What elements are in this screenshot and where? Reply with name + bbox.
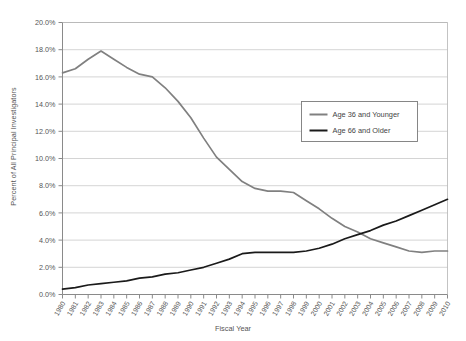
x-tick-label: 1992 xyxy=(207,300,221,317)
y-tick-label: 4.0% xyxy=(39,236,56,245)
y-tick-label: 18.0% xyxy=(35,45,56,54)
x-tick-label: 1987 xyxy=(143,300,157,317)
x-tick-label: 1989 xyxy=(168,300,182,317)
x-tick-label: 2009 xyxy=(425,300,439,317)
x-tick-label: 2006 xyxy=(386,300,400,317)
x-tick-label: 2005 xyxy=(374,300,388,317)
x-tick-label: 2010 xyxy=(438,300,452,317)
x-tick-label: 1983 xyxy=(91,300,105,317)
x-tick-label: 2008 xyxy=(412,300,426,317)
x-tick-label: 1982 xyxy=(78,300,92,317)
x-tick-label: 1981 xyxy=(66,300,80,317)
x-tick-label: 2007 xyxy=(399,300,413,317)
legend-label: Age 66 and Older xyxy=(333,126,391,135)
chart-container: 0.0%2.0%4.0%6.0%8.0%10.0%12.0%14.0%16.0%… xyxy=(0,0,466,341)
gridlines xyxy=(63,23,448,268)
y-tick-label: 16.0% xyxy=(35,73,56,82)
x-tick-label: 1993 xyxy=(220,300,234,317)
data-series xyxy=(63,51,448,289)
y-tick-label: 14.0% xyxy=(35,100,56,109)
y-tick-label: 12.0% xyxy=(35,127,56,136)
y-tick-label: 10.0% xyxy=(35,154,56,163)
x-tick-label: 2003 xyxy=(348,300,362,317)
x-tick-label: 1980 xyxy=(53,300,67,317)
y-axis-ticks: 0.0%2.0%4.0%6.0%8.0%10.0%12.0%14.0%16.0%… xyxy=(35,18,62,299)
chart-legend: Age 36 and YoungerAge 66 and Older xyxy=(302,102,418,142)
x-axis-ticks: 1980198119821983198419851986198719881989… xyxy=(53,295,452,317)
x-tick-label: 1984 xyxy=(104,300,118,317)
x-tick-label: 1986 xyxy=(130,300,144,317)
x-tick-label: 1985 xyxy=(117,300,131,317)
y-tick-label: 20.0% xyxy=(35,18,56,27)
x-tick-label: 2000 xyxy=(309,300,323,317)
x-tick-label: 1997 xyxy=(271,300,285,317)
x-tick-label: 1995 xyxy=(245,300,259,317)
x-tick-label: 1990 xyxy=(181,300,195,317)
y-tick-label: 6.0% xyxy=(39,209,56,218)
x-tick-label: 1988 xyxy=(155,300,169,317)
x-tick-label: 2001 xyxy=(322,300,336,317)
y-tick-label: 2.0% xyxy=(39,263,56,272)
y-tick-label: 0.0% xyxy=(39,290,56,299)
x-tick-label: 2002 xyxy=(335,300,349,317)
legend-label: Age 36 and Younger xyxy=(333,110,401,119)
line-chart: 0.0%2.0%4.0%6.0%8.0%10.0%12.0%14.0%16.0%… xyxy=(0,0,466,341)
x-tick-label: 1994 xyxy=(232,300,246,317)
legend-box xyxy=(302,102,418,142)
x-axis-title: Fiscal Year xyxy=(0,324,466,333)
x-tick-label: 1999 xyxy=(297,300,311,317)
series-line xyxy=(63,51,448,252)
y-tick-label: 8.0% xyxy=(39,181,56,190)
x-tick-label: 2004 xyxy=(361,300,375,317)
x-tick-label: 1996 xyxy=(258,300,272,317)
x-tick-label: 1991 xyxy=(194,300,208,317)
x-tick-label: 1998 xyxy=(284,300,298,317)
